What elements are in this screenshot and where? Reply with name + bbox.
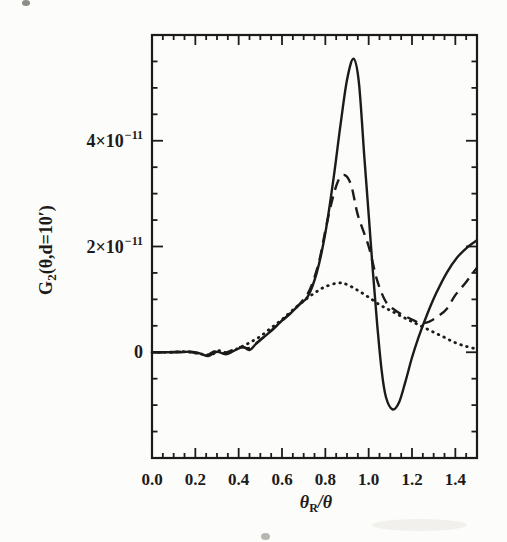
plot-frame — [152, 35, 477, 458]
x-tick-label: 0.0 — [141, 470, 162, 489]
y-tick-label: 2×10−11 — [87, 234, 143, 257]
x-tick-label: 0.4 — [228, 470, 250, 489]
x-tick-label: 1.2 — [401, 470, 422, 489]
y-axis-title: G2(θ,d=10′) — [36, 205, 59, 295]
x-tick-label: 1.0 — [358, 470, 379, 489]
series-solid-curve — [152, 59, 477, 410]
x-tick-label: 0.2 — [185, 470, 206, 489]
x-tick-label: 1.4 — [445, 470, 467, 489]
scan-artifact — [261, 533, 270, 540]
y-axis-ticks — [152, 61, 477, 431]
y-tick-label: 4×10−11 — [87, 128, 143, 151]
figure-page: 0.00.20.40.60.81.01.21.402×10−114×10−11θ… — [0, 0, 507, 542]
series-dotted-curve — [152, 283, 477, 355]
line-chart: 0.00.20.40.60.81.01.21.402×10−114×10−11θ… — [0, 0, 507, 542]
x-axis-ticks — [152, 35, 477, 458]
y-tick-label: 0 — [134, 342, 143, 362]
x-tick-label: 0.8 — [315, 470, 336, 489]
x-tick-label: 0.6 — [271, 470, 292, 489]
scan-artifact — [22, 0, 30, 6]
scan-artifact — [372, 519, 467, 531]
x-axis-title: θR/θ — [300, 492, 333, 515]
